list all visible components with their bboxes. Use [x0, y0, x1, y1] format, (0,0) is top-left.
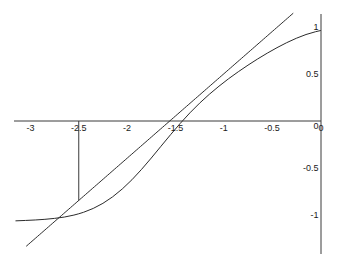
y-tick-label: -1 [310, 211, 318, 220]
x-tick-label: -1 [220, 124, 228, 133]
x-tick-label: -2 [123, 124, 131, 133]
x-tick-label: -0.5 [264, 124, 280, 133]
chart-figure: -3-2.5-2-1.5-1-0.50 10.50-0.5-1 [0, 0, 338, 260]
x-tick-label: -3 [26, 124, 34, 133]
y-tick-label: 0.5 [306, 70, 319, 79]
y-tick-label: 1 [313, 23, 318, 32]
y-tick-label: -0.5 [303, 164, 319, 173]
x-tick-label: -2.5 [71, 124, 87, 133]
y-tick-label: 0 [313, 122, 318, 131]
x-tick-label: -1.5 [168, 124, 184, 133]
x-tick-label: 0 [318, 124, 323, 133]
